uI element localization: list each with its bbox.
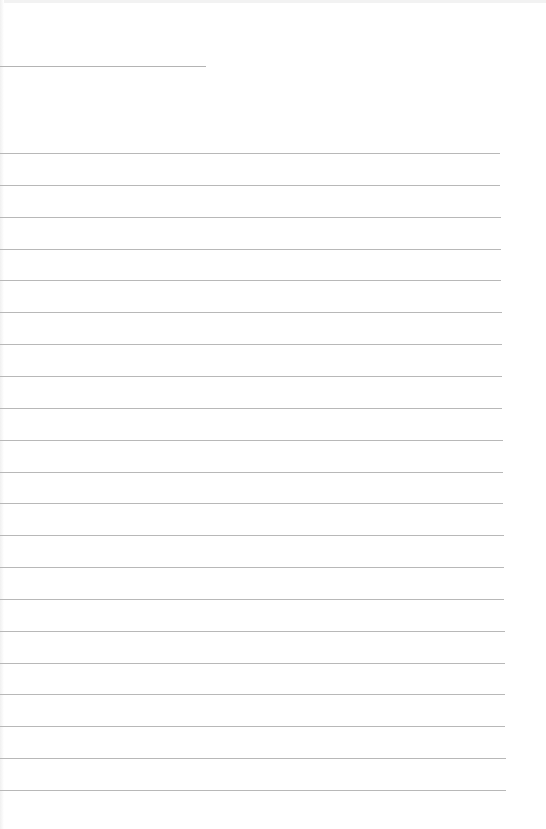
ruled-line	[0, 599, 504, 600]
ruled-line	[0, 472, 503, 473]
header-name-line	[0, 66, 206, 67]
ruled-line	[0, 567, 504, 568]
ruled-line	[0, 344, 502, 345]
page-top-edge	[0, 0, 546, 3]
ruled-line	[0, 663, 505, 664]
ruled-line	[0, 694, 505, 695]
ruled-line	[0, 440, 503, 441]
ruled-line	[0, 376, 502, 377]
ruled-line	[0, 631, 505, 632]
ruled-line	[0, 726, 505, 727]
ruled-line	[0, 280, 501, 281]
ruled-line	[0, 153, 500, 154]
ruled-line	[0, 408, 502, 409]
ruled-line	[0, 535, 504, 536]
ruled-line	[0, 503, 503, 504]
ruled-line	[0, 217, 501, 218]
ruled-line	[0, 790, 506, 791]
ruled-line	[0, 758, 506, 759]
ruled-line	[0, 249, 501, 250]
ruled-line	[0, 185, 500, 186]
page-left-shadow	[0, 0, 4, 829]
ruled-line	[0, 312, 502, 313]
